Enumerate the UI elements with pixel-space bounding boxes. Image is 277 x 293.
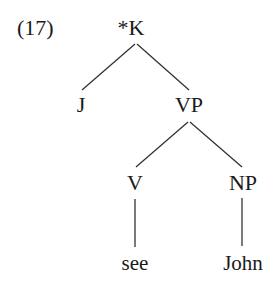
leaf-john: John xyxy=(223,252,263,274)
node-root-k: *K xyxy=(118,17,145,39)
tree-edges xyxy=(0,0,277,293)
node-np: NP xyxy=(229,172,257,194)
edge-vp-v xyxy=(136,122,188,167)
edge-k-vp xyxy=(137,44,189,90)
node-v: V xyxy=(127,172,143,194)
leaf-see: see xyxy=(122,252,149,274)
node-j: J xyxy=(77,94,86,116)
edge-k-j xyxy=(82,44,135,90)
edge-vp-np xyxy=(190,122,242,167)
node-vp: VP xyxy=(175,94,203,116)
